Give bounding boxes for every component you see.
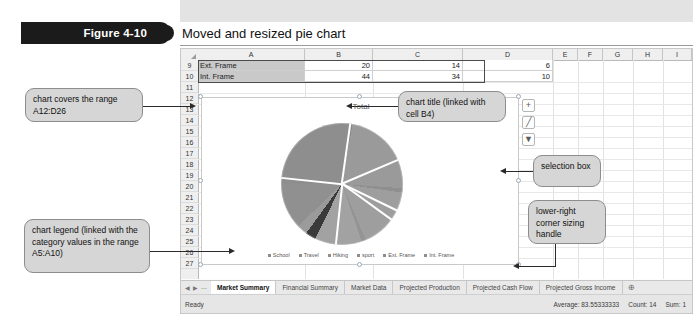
legend-item-sport[interactable]: sport: [357, 252, 374, 258]
legend-marker-icon: [383, 254, 386, 257]
pie-separator: [342, 159, 399, 184]
pie-separator: [341, 123, 351, 184]
sheet-tab-bar[interactable]: ◀ ▶ ⋯ Market Summary Financial Summary M…: [181, 280, 692, 294]
legend-item-school[interactable]: School: [268, 252, 290, 258]
row-header-14[interactable]: 14: [181, 115, 198, 126]
status-summary: Average: 83.55333333 Count: 14 Sum: 1: [554, 301, 692, 308]
sheet-nav-buttons[interactable]: ◀ ▶ ⋯: [181, 281, 211, 294]
sizing-handle-middle-right[interactable]: [516, 178, 521, 183]
legend-item-ext-frame[interactable]: Ext. Frame: [383, 252, 415, 258]
column-header-h[interactable]: H: [633, 49, 663, 60]
row-header-9[interactable]: 9: [181, 60, 198, 71]
callout-chart-legend: chart legend (linked with the category v…: [24, 219, 150, 273]
legend-item-int-frame[interactable]: Int. Frame: [424, 252, 454, 258]
cell-c10[interactable]: 34: [373, 71, 463, 82]
column-header-e[interactable]: E: [553, 49, 578, 60]
sizing-handle-top-left[interactable]: [198, 94, 203, 99]
chart-styles-button[interactable]: ╱: [522, 116, 535, 129]
sizing-handle-bottom-left[interactable]: [198, 262, 203, 267]
cell-d10[interactable]: 10: [463, 71, 553, 82]
legend-item-hiking[interactable]: Hiking: [328, 252, 348, 258]
sizing-handle-bottom-center[interactable]: [357, 262, 362, 267]
chart-elements-button[interactable]: +: [522, 99, 535, 112]
pie-chart-object[interactable]: Total School Travel: [201, 97, 519, 265]
sizing-handle-middle-left[interactable]: [198, 178, 203, 183]
cell-b10[interactable]: 44: [305, 71, 373, 82]
cell-d9[interactable]: 6: [463, 60, 553, 71]
leader-arrow-selection-box: [500, 168, 506, 174]
row-header-25[interactable]: 25: [181, 236, 198, 247]
callout-chart-range: chart covers the range A12:D26: [25, 88, 143, 122]
cell-a9[interactable]: Ext. Frame: [198, 60, 305, 71]
sheet-tab-projected-cash-flow[interactable]: Projected Cash Flow: [467, 281, 540, 294]
sizing-handle-top-right[interactable]: [516, 94, 521, 99]
legend-marker-icon: [328, 254, 331, 257]
select-all-button[interactable]: [181, 49, 199, 60]
gridline-h: [198, 82, 692, 83]
pie-chart-graphic[interactable]: [281, 123, 403, 245]
column-header-f[interactable]: F: [578, 49, 603, 60]
row-header-17[interactable]: 17: [181, 148, 198, 159]
figure-divider: [180, 45, 693, 46]
cell-b9[interactable]: 20: [305, 60, 373, 71]
row-header-10[interactable]: 10: [181, 71, 198, 82]
column-header-d[interactable]: D: [463, 49, 553, 60]
row-header-15[interactable]: 15: [181, 126, 198, 137]
sheet-tab-market-data[interactable]: Market Data: [345, 281, 393, 294]
sheet-tab-projected-production[interactable]: Projected Production: [393, 281, 466, 294]
leader-line-sizing-handle-h: [519, 266, 556, 267]
sheet-tab-market-summary[interactable]: Market Summary: [211, 281, 276, 294]
row-header-26[interactable]: 26: [181, 247, 198, 258]
column-header-b[interactable]: B: [305, 49, 373, 60]
legend-label: Hiking: [333, 252, 348, 258]
legend-label: Travel: [304, 252, 319, 258]
excel-window: A B C D E F G H I 9 10 11 12 13 14 15 16…: [180, 48, 693, 314]
column-header-a[interactable]: A: [198, 49, 305, 60]
row-header-20[interactable]: 20: [181, 181, 198, 192]
sizing-handle-top-center[interactable]: [357, 94, 362, 99]
worksheet-grid[interactable]: A B C D E F G H I 9 10 11 12 13 14 15 16…: [181, 49, 692, 279]
leader-arrow-sizing-handle: [513, 263, 519, 269]
cell-a10[interactable]: Int. Frame: [198, 71, 305, 82]
row-header-23[interactable]: 23: [181, 214, 198, 225]
prev-sheet-icon[interactable]: ◀: [185, 284, 190, 291]
callout-sizing-handle: lower-right corner sizing handle: [528, 200, 606, 244]
sheet-tab-financial-summary[interactable]: Financial Summary: [276, 281, 345, 294]
pie-separator: [342, 183, 392, 220]
row-header-22[interactable]: 22: [181, 203, 198, 214]
figure-number-tab: Figure 4-10: [21, 22, 171, 44]
figure-number-label: Figure 4-10: [83, 27, 147, 39]
row-header-16[interactable]: 16: [181, 137, 198, 148]
figure-caption: Moved and resized pie chart: [182, 23, 687, 44]
chart-side-buttons[interactable]: + ╱ ▼: [522, 99, 536, 150]
row-header-21[interactable]: 21: [181, 192, 198, 203]
leader-line-chart-range: [143, 106, 191, 107]
chart-filters-button[interactable]: ▼: [522, 133, 535, 146]
column-header-c[interactable]: C: [373, 49, 463, 60]
leader-line-chart-title: [352, 106, 398, 107]
leader-line-selection-box: [506, 171, 533, 172]
pie-separator: [342, 183, 397, 211]
pie-separator: [335, 184, 343, 245]
row-header-19[interactable]: 19: [181, 170, 198, 181]
next-sheet-icon[interactable]: ▶: [193, 284, 198, 291]
status-average: Average: 83.55333333: [554, 301, 620, 308]
sheet-tab-projected-gross-income[interactable]: Projected Gross Income: [540, 281, 623, 294]
legend-marker-icon: [268, 254, 271, 257]
column-header-i[interactable]: I: [663, 49, 692, 60]
row-header-24[interactable]: 24: [181, 225, 198, 236]
figure-page: Figure 4-10 Moved and resized pie chart …: [0, 0, 693, 333]
legend-label: School: [273, 252, 290, 258]
row-header-11[interactable]: 11: [181, 82, 198, 93]
legend-label: sport: [362, 252, 374, 258]
new-sheet-icon[interactable]: ⊕: [623, 281, 641, 294]
column-header-g[interactable]: G: [603, 49, 633, 60]
cell-c9[interactable]: 14: [373, 60, 463, 71]
status-bar: Ready Average: 83.55333333 Count: 14 Sum…: [181, 294, 692, 313]
leader-arrow-chart-title: [346, 103, 352, 109]
chart-legend[interactable]: School Travel Hiking sport: [202, 252, 520, 258]
row-header-18[interactable]: 18: [181, 159, 198, 170]
legend-item-travel[interactable]: Travel: [299, 252, 319, 258]
row-header-27[interactable]: 27: [181, 258, 198, 269]
more-sheets-icon[interactable]: ⋯: [201, 284, 207, 291]
